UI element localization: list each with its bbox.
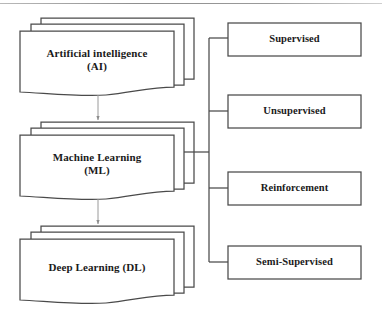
- diagram-canvas: [0, 0, 382, 318]
- node-ml-layer-front: [20, 135, 174, 200]
- node-ml-stack[interactable]: [20, 122, 194, 200]
- node-supervised-box[interactable]: [228, 23, 361, 56]
- node-ai-layer-front: [20, 31, 174, 96]
- node-unsupervised-box[interactable]: [228, 95, 361, 128]
- node-reinforcement-box[interactable]: [228, 172, 361, 205]
- node-ai-stack[interactable]: [20, 18, 194, 96]
- node-dl-stack[interactable]: [20, 226, 194, 304]
- node-dl-layer-front: [20, 239, 174, 304]
- node-semi-supervised-box[interactable]: [228, 246, 361, 279]
